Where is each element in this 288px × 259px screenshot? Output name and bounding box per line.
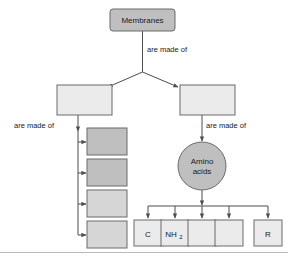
node-bottom-child-3[interactable]: [188, 220, 216, 246]
node-left-child-2[interactable]: [87, 159, 127, 186]
concept-map-diagram: Membranes are made of are made of are ma…: [0, 0, 288, 259]
node-bottom-child-4[interactable]: [215, 220, 243, 246]
node-left-branch-box[interactable]: [57, 85, 112, 115]
node-bottom-child-nh2-label: NH: [165, 230, 177, 239]
edge-label-root: are made of: [147, 45, 188, 54]
node-right-branch-shape[interactable]: [180, 85, 235, 115]
node-amino-acids[interactable]: Amino acids: [178, 142, 226, 190]
node-left-child-3[interactable]: [87, 190, 127, 217]
node-bottom-child-4-shape[interactable]: [215, 220, 243, 246]
connector-root-to-right: [143, 72, 179, 87]
node-bottom-child-nh2[interactable]: NH 2: [161, 220, 189, 246]
node-bottom-child-c[interactable]: C: [134, 220, 162, 246]
edge-label-right: are made of: [206, 121, 247, 130]
diagram-page: Membranes are made of are made of are ma…: [0, 0, 288, 259]
node-left-branch-shape[interactable]: [57, 85, 112, 115]
edge-label-left: are made of: [14, 121, 55, 130]
node-left-child-2-shape[interactable]: [87, 159, 127, 186]
node-bottom-child-r-label: R: [265, 230, 271, 239]
node-bottom-child-r[interactable]: R: [254, 220, 282, 246]
node-bottom-child-c-label: C: [145, 230, 151, 239]
node-bottom-child-3-shape[interactable]: [188, 220, 216, 246]
node-left-child-1[interactable]: [87, 128, 127, 155]
node-left-child-1-shape[interactable]: [87, 128, 127, 155]
node-left-child-4-shape[interactable]: [87, 221, 127, 248]
connector-root-to-left: [108, 72, 143, 87]
node-left-child-4[interactable]: [87, 221, 127, 248]
node-membranes[interactable]: Membranes: [110, 9, 175, 31]
node-amino-acids-shape[interactable]: [178, 142, 226, 190]
node-right-branch-box[interactable]: [180, 85, 235, 115]
node-left-child-3-shape[interactable]: [87, 190, 127, 217]
node-amino-acids-label-line2: acids: [193, 167, 212, 176]
node-amino-acids-label-line1: Amino: [191, 157, 214, 166]
node-membranes-label: Membranes: [121, 16, 163, 25]
